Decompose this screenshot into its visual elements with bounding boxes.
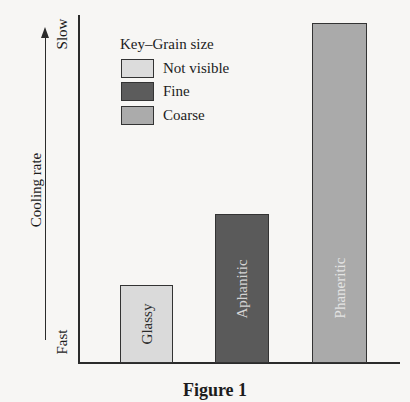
legend-title: Key–Grain size	[120, 36, 214, 53]
legend-label: Fine	[163, 83, 190, 100]
legend-swatch-fine	[121, 82, 154, 101]
bar-label-phaneritic: Phaneritic	[331, 257, 348, 318]
legend-label: Coarse	[163, 107, 205, 124]
legend-swatch-coarse	[121, 106, 154, 125]
legend-item-not-visible: Not visible	[121, 59, 229, 78]
bar-glassy: Glassy	[120, 285, 173, 363]
arrow-up-icon	[41, 27, 49, 38]
figure-caption: Figure 1	[0, 380, 410, 401]
y-tick-slow: Slow	[54, 14, 74, 54]
legend-label: Not visible	[163, 60, 229, 77]
legend-swatch-not-visible	[121, 59, 154, 78]
bar-label-aphanitic: Aphanitic	[234, 259, 251, 318]
legend-item-coarse: Coarse	[121, 106, 205, 125]
y-tick-fast: Fast	[54, 322, 74, 362]
y-axis-label: Cooling rate	[28, 140, 48, 240]
bar-aphanitic: Aphanitic	[215, 214, 269, 363]
bar-phaneritic: Phaneritic	[312, 23, 367, 363]
bar-label-glassy: Glassy	[138, 304, 155, 345]
y-axis-line	[78, 15, 80, 363]
legend-item-fine: Fine	[121, 82, 190, 101]
